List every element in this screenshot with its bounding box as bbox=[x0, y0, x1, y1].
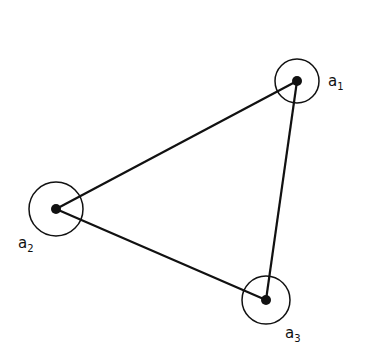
node-a2-dot bbox=[51, 204, 61, 214]
triangle-diagram: a1 a2 a3 bbox=[0, 0, 367, 362]
node-a2: a2 bbox=[18, 182, 83, 254]
node-a2-label: a2 bbox=[18, 234, 34, 254]
node-a3: a3 bbox=[242, 276, 301, 344]
edges bbox=[56, 81, 297, 300]
node-a3-dot bbox=[261, 295, 271, 305]
node-a1-label: a1 bbox=[328, 72, 344, 92]
edge-a1-a2 bbox=[56, 81, 297, 209]
node-a3-label: a3 bbox=[285, 324, 301, 344]
node-a1: a1 bbox=[275, 59, 344, 103]
edge-a3-a1 bbox=[266, 81, 297, 300]
node-a1-dot bbox=[292, 76, 302, 86]
edge-a2-a3 bbox=[56, 209, 266, 300]
